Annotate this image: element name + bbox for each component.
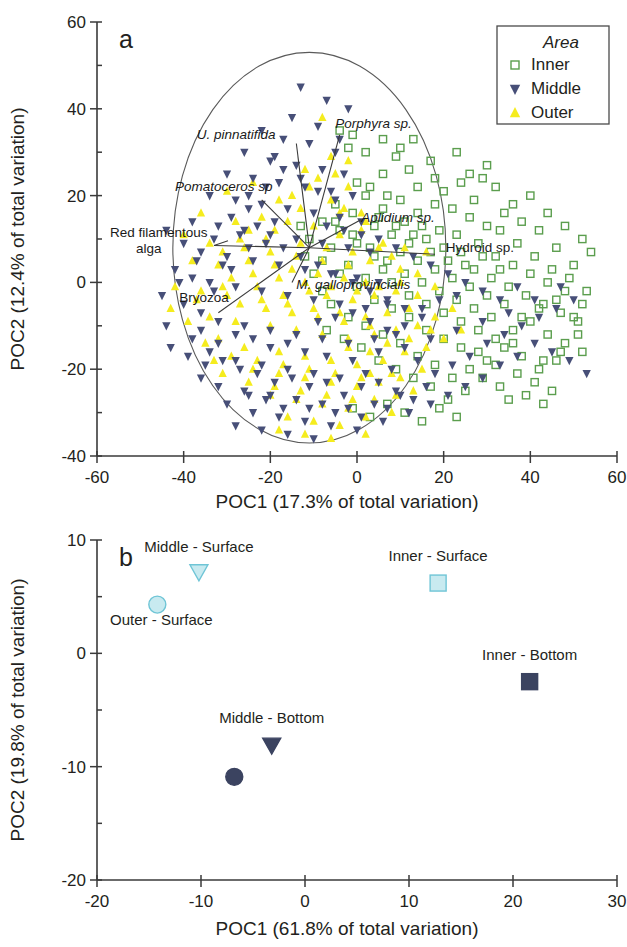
data-point [258,288,266,296]
data-point [314,262,322,270]
data-point [488,314,495,321]
data-point [240,322,248,330]
data-point [210,356,218,364]
data-point [496,227,503,234]
data-point [245,392,253,400]
data-point [362,305,370,313]
data-point [366,347,374,355]
panel-a-y-ticklabel: 20 [67,187,86,206]
data-point [219,369,227,377]
panel-b-x-ticklabel: -20 [85,892,110,911]
panel-a-legend: AreaInnerMiddleOuter [497,26,609,124]
panel-b-point-4: Middle - Bottom [219,709,324,754]
data-point [323,223,331,231]
data-point [249,335,257,343]
data-point [379,170,386,177]
data-point [522,292,529,299]
data-point [245,377,253,385]
panel-a-x-ticklabel: -60 [85,468,110,487]
data-point [336,374,344,382]
species-leader-4 [214,241,228,246]
data-point [449,274,456,281]
data-point [167,304,175,312]
data-point [197,309,205,317]
data-point [271,379,279,387]
data-point [332,218,339,225]
data-point [540,400,547,407]
data-point [275,347,283,355]
panel-a-x-ticklabel: -40 [171,468,196,487]
data-point [262,396,270,404]
figure-svg: -40-200204060-60-40-200204060POC1 (17.3%… [0,0,627,947]
data-point [379,418,387,426]
data-point [535,366,542,373]
data-point [418,279,425,286]
data-point [405,334,413,342]
panel-b-x-ticklabel: 30 [608,892,627,911]
data-point [232,422,240,430]
data-point [488,274,495,281]
panel-b-marker [522,674,538,690]
data-point [206,279,214,287]
data-point [401,344,409,352]
data-point [397,196,404,203]
data-point [535,314,543,322]
data-point [349,295,357,303]
data-point [405,314,412,321]
data-point [540,357,547,364]
data-point [570,314,577,321]
data-point [323,327,330,334]
data-point [344,156,352,164]
data-point [440,188,447,195]
data-point [249,409,257,417]
data-point [453,413,460,420]
data-point [475,348,482,355]
data-point [470,196,477,203]
data-point [427,335,435,343]
data-point [496,383,503,390]
data-point [314,123,322,131]
panel-b-x-ticklabel: 0 [300,892,309,911]
data-point [353,179,360,186]
data-point [197,374,205,382]
legend-entry-label: Inner [531,55,570,74]
data-point [544,331,551,338]
data-point [297,222,304,229]
data-point [353,426,361,434]
data-point [583,287,590,294]
data-point [583,370,591,378]
data-point [227,273,235,281]
data-point [496,266,503,273]
data-point [284,299,292,307]
data-point [232,283,240,291]
data-point [514,240,521,247]
data-point [310,416,318,424]
data-point [557,309,564,316]
data-point [349,131,356,138]
data-point [271,218,279,226]
data-point [258,201,266,209]
data-point [284,366,292,374]
data-point [379,136,386,143]
panel-b-x-axis-title: POC1 (61.8% of total variation) [216,918,479,939]
data-point [301,348,309,356]
data-point [501,344,508,351]
panel-a-x-ticklabel: 60 [608,468,627,487]
panel-b-point-label: Inner - Bottom [482,646,577,663]
data-point [236,299,244,307]
panel-a-y-ticklabel: 40 [67,100,86,119]
data-point [275,369,283,377]
data-point [383,296,391,304]
legend-title: Area [542,33,579,52]
data-point [349,231,356,238]
data-point [331,314,339,322]
data-point [418,305,426,313]
data-point [535,305,542,312]
data-point [540,301,547,308]
data-point [384,192,391,199]
species-label-6: M. galloprovincialis [296,277,410,292]
data-point [314,173,322,181]
data-point [414,257,421,264]
data-point [509,327,516,334]
panel-b-point-label: Outer - Surface [110,611,213,628]
